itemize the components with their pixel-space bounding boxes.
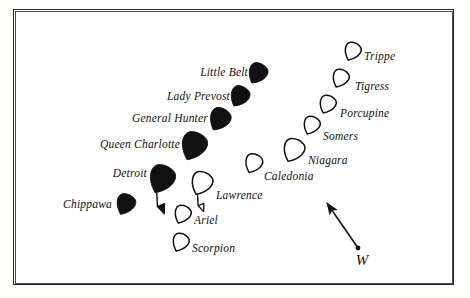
ship-marker-caledonia xyxy=(241,151,264,176)
ship-marker-ariel xyxy=(171,203,193,226)
wind-arrow-icon xyxy=(327,203,358,248)
ship-marker-queen-charlotte xyxy=(176,128,211,165)
ship-label-lady-prevost: Lady Prevost xyxy=(167,91,230,103)
ship-label-caledonia: Caledonia xyxy=(264,171,314,183)
ship-label-porcupine: Porcupine xyxy=(340,108,389,120)
ship-label-scorpion: Scorpion xyxy=(192,243,235,255)
ship-label-queen-charlotte: Queen Charlotte xyxy=(100,139,180,151)
ship-label-chippawa: Chippawa xyxy=(63,199,112,211)
ship-hull-icon xyxy=(176,128,211,165)
ship-marker-lawrence xyxy=(182,169,219,212)
ship-label-trippe: Trippe xyxy=(364,51,395,63)
ship-label-detroit: Detroit xyxy=(113,168,147,180)
ship-label-tigress: Tigress xyxy=(355,81,389,93)
wind-origin-dot-icon xyxy=(356,246,361,251)
ship-hull-icon xyxy=(144,161,179,198)
ship-marker-trippe xyxy=(341,40,363,63)
ship-label-somers: Somers xyxy=(323,131,358,143)
ship-marker-chippawa xyxy=(112,191,138,218)
ship-label-little-belt: Little Belt xyxy=(200,67,248,79)
ship-hull-icon xyxy=(171,203,193,226)
ship-label-niagara: Niagara xyxy=(308,155,348,167)
diagram-page: Little BeltLady PrevostGeneral HunterQue… xyxy=(0,0,470,298)
ship-marker-porcupine xyxy=(316,93,338,116)
ship-hull-icon xyxy=(316,93,338,116)
ship-marker-niagara xyxy=(279,136,308,166)
ship-hull-icon xyxy=(300,114,322,137)
wind-arrow-group xyxy=(327,203,360,250)
ship-hull-icon xyxy=(241,151,264,176)
ship-hull-icon xyxy=(329,67,351,90)
wind-direction-label: W xyxy=(356,252,369,269)
ship-marker-general-hunter xyxy=(204,104,234,135)
ship-marker-scorpion xyxy=(169,231,191,254)
ship-hull-icon xyxy=(204,104,234,135)
ship-hull-icon xyxy=(341,40,363,63)
ship-label-ariel: Ariel xyxy=(194,215,218,227)
ship-marker-somers xyxy=(300,114,322,137)
ship-hull-icon xyxy=(169,231,191,254)
ship-hull-icon xyxy=(187,169,216,199)
ship-hull-icon xyxy=(112,191,138,218)
ship-label-lawrence: Lawrence xyxy=(216,190,263,202)
ship-marker-tigress xyxy=(329,67,351,90)
ship-label-general-hunter: General Hunter xyxy=(132,113,208,125)
ship-hull-icon xyxy=(279,136,308,166)
